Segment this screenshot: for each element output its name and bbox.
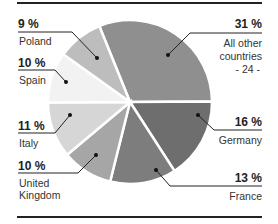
poland-pct: 9 % (18, 17, 39, 31)
others-label-line1: All other (223, 37, 262, 49)
pie-slices (48, 20, 212, 184)
germany-pct: 16 % (235, 115, 262, 129)
uk-pct: 10 % (18, 159, 45, 173)
poland-label: Poland (19, 35, 52, 47)
uk-label-line1: United (19, 177, 49, 189)
spain-label: Spain (19, 74, 46, 86)
spain-pct: 10 % (18, 56, 45, 70)
uk-label-line2: Kingdom (19, 189, 60, 201)
others-note: - 24 - (235, 63, 260, 75)
others-pct: 31 % (235, 17, 262, 31)
france-pct: 13 % (235, 171, 262, 185)
italy-pct: 11 % (18, 119, 45, 133)
italy-label: Italy (19, 137, 38, 149)
france-label: France (229, 190, 262, 202)
others-label-line2: countries (219, 50, 262, 62)
germany-label: Germany (219, 134, 262, 146)
